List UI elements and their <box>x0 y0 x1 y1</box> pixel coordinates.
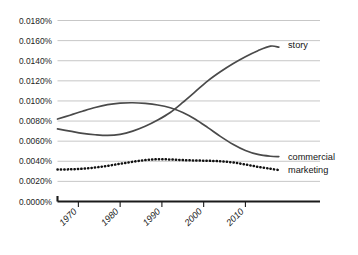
x-axis-tick-label: 1970 <box>57 206 79 228</box>
y-axis-tick-label: 0.0160% <box>19 36 53 46</box>
y-axis-tick-label: 0.0120% <box>19 76 53 86</box>
line-chart: 0.0000%0.0020%0.0040%0.0060%0.0080%0.010… <box>0 0 358 255</box>
y-axis-tick-label: 0.0080% <box>19 116 53 126</box>
y-axis-tick-label: 0.0180% <box>19 16 53 26</box>
series-label-marketing: marketing <box>288 165 328 175</box>
chart-canvas: 0.0000%0.0020%0.0040%0.0060%0.0080%0.010… <box>0 0 358 255</box>
y-axis-tick-label: 0.0060% <box>19 136 53 146</box>
y-axis-tick-label: 0.0040% <box>19 156 53 166</box>
x-axis-tick-label: 1980 <box>99 206 121 228</box>
series-label-story: story <box>288 40 308 50</box>
x-axis-tick-label: 2010 <box>224 206 247 229</box>
y-axis-tick-label: 0.0020% <box>19 176 53 186</box>
series-line-story <box>58 46 279 135</box>
series-line-commercial <box>58 103 279 157</box>
series-line-marketing <box>58 159 279 170</box>
y-axis-tick-label: 0.0140% <box>19 56 53 66</box>
x-axis-tick-label: 1990 <box>141 206 163 228</box>
y-axis-tick-label: 0.0100% <box>19 96 53 106</box>
series-label-commercial: commercial <box>288 152 335 162</box>
y-axis-tick-label: 0.0000% <box>19 197 53 207</box>
x-axis-tick-label: 2000 <box>182 206 205 229</box>
